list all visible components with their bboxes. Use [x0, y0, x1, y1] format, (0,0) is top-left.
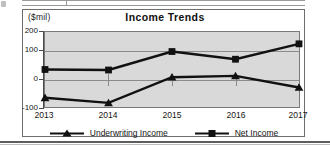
ytick-label-0: 0 — [4, 74, 38, 83]
page-bottom-rule-secondary — [0, 144, 330, 145]
series-line-net-income — [45, 44, 299, 70]
scan-rule-top — [22, 0, 305, 1]
data-point — [169, 48, 176, 55]
chart-title: Income Trends — [0, 11, 330, 23]
ytick-label-200: 200 — [4, 26, 38, 35]
scan-smudge — [1, 1, 6, 7]
chart-legend: Underwriting Income Net Income — [22, 126, 305, 140]
legend-label-underwriting-income: Underwriting Income — [90, 128, 168, 138]
legend-entry-underwriting-income[interactable]: Underwriting Income — [49, 128, 168, 139]
scan-rule-bottom — [22, 5, 305, 6]
series-layer — [44, 31, 300, 108]
legend-label-net-income: Net Income — [235, 128, 278, 138]
xtick-label-2017: 2017 — [277, 110, 319, 120]
triangle-marker-icon — [49, 128, 85, 139]
xtick-label-2016: 2016 — [215, 110, 257, 120]
legend-entry-net-income[interactable]: Net Income — [194, 128, 278, 139]
data-point — [296, 40, 303, 47]
xtick-label-2015: 2015 — [151, 110, 193, 120]
ytick-mark--100 — [39, 108, 44, 109]
data-point — [232, 56, 239, 63]
page-bottom-rule — [0, 141, 330, 143]
data-point — [105, 67, 112, 74]
xtick-label-2013: 2013 — [23, 110, 65, 120]
xtick-label-2014: 2014 — [87, 110, 129, 120]
series-markers-net-income — [42, 40, 303, 73]
square-marker-icon — [194, 128, 230, 139]
data-point — [42, 66, 49, 73]
ytick-label-100: 100 — [4, 45, 38, 54]
